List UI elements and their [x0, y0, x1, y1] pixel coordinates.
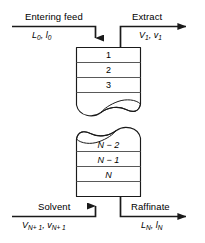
extract-var-v-sub: 1 — [158, 34, 162, 41]
entering-feed-var-l-sub: 0 — [48, 34, 52, 41]
raffinate-variables: LN, lN — [141, 221, 163, 230]
solvent-var-v-sub: N+ 1 — [52, 224, 66, 231]
solvent-var-v: v — [47, 220, 52, 230]
raffinate-var-l-sub: N — [158, 224, 163, 231]
stage-label-n-minus-1: N − 1 — [76, 156, 141, 165]
entering-feed-label: Entering feed — [25, 12, 83, 22]
entering-feed-stream-line — [12, 27, 96, 39]
stage-label-n-minus-2: N − 2 — [76, 141, 141, 150]
raffinate-label: Raffinate — [131, 202, 170, 212]
extract-var-V-sub: 1 — [145, 34, 149, 41]
stage-label-2: 2 — [76, 66, 141, 75]
solvent-variables: VN+ 1, vN+ 1 — [22, 221, 66, 230]
stage-label-1: 1 — [76, 51, 141, 60]
entering-feed-var-L-sub: 0 — [37, 34, 41, 41]
extract-variables: V1, v1 — [139, 31, 162, 40]
stage-label-n: N — [76, 171, 141, 180]
extract-label: Extract — [132, 12, 162, 22]
entering-feed-variables: L0, l0 — [32, 31, 51, 40]
solvent-var-V-sub: N+ 1 — [28, 224, 42, 231]
raffinate-var-L-sub: N — [146, 224, 151, 231]
extraction-cascade-diagram: Entering feed L0, l0 Extract V1, v1 Solv… — [0, 0, 205, 243]
stage-label-3: 3 — [76, 81, 141, 90]
solvent-label: Solvent — [38, 202, 70, 212]
diagram-canvas — [0, 0, 205, 243]
